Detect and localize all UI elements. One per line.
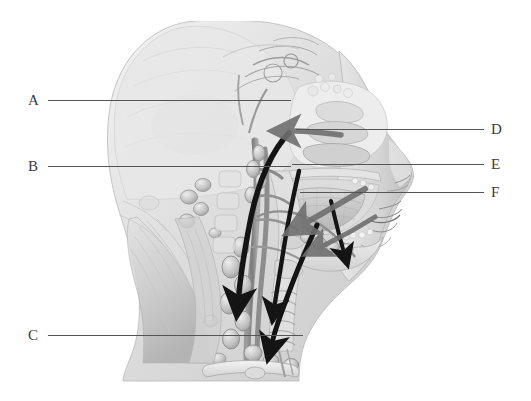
label-c: C bbox=[28, 328, 39, 343]
leader-line-c bbox=[48, 335, 303, 336]
label-a: A bbox=[28, 93, 39, 108]
leader-line-a bbox=[48, 100, 291, 101]
illustration-svg bbox=[103, 21, 418, 383]
leader-line-f bbox=[300, 192, 484, 193]
head-neck-illustration bbox=[103, 21, 418, 383]
label-e: E bbox=[491, 157, 501, 172]
anatomy-figure: A B C D E F bbox=[0, 0, 531, 401]
label-b: B bbox=[28, 159, 39, 174]
leader-line-e bbox=[292, 164, 484, 165]
leader-line-d bbox=[296, 129, 484, 130]
label-f: F bbox=[491, 185, 500, 200]
label-d: D bbox=[491, 122, 502, 137]
leader-line-b bbox=[48, 166, 291, 167]
nasal-cavity bbox=[289, 73, 387, 167]
